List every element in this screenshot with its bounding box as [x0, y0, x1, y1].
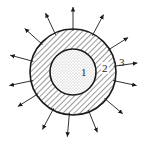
radial-arrow-icon [92, 15, 103, 36]
radial-arrow-icon [42, 108, 53, 129]
radial-arrow-icon [9, 81, 32, 86]
label-2: 2 [102, 62, 108, 74]
radial-arrow-icon [46, 13, 56, 35]
radial-arrow-icon [113, 81, 136, 86]
inner-core-stipple [51, 50, 95, 94]
radial-arrow-icon [67, 113, 69, 137]
radial-arrow-icon [104, 98, 122, 113]
radial-arrow-icon [25, 29, 43, 45]
radial-arrow-icon [88, 110, 97, 132]
radial-arrow-icon [18, 94, 38, 107]
radial-arrow-icon [10, 55, 33, 61]
label-3: 3 [119, 56, 125, 68]
radial-arrow-icon [108, 38, 128, 51]
concentric-diagram: 1 2 3 [0, 0, 145, 142]
radial-arrow-icon [114, 63, 138, 66]
label-1: 1 [81, 66, 87, 78]
